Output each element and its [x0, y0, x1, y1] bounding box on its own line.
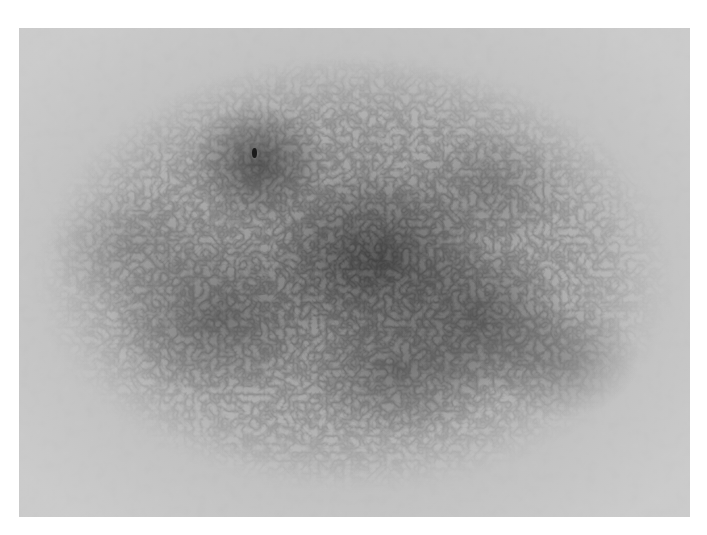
- vignette: [19, 28, 690, 517]
- image-frame: [0, 0, 707, 535]
- dermoscopy-photo: [19, 28, 690, 517]
